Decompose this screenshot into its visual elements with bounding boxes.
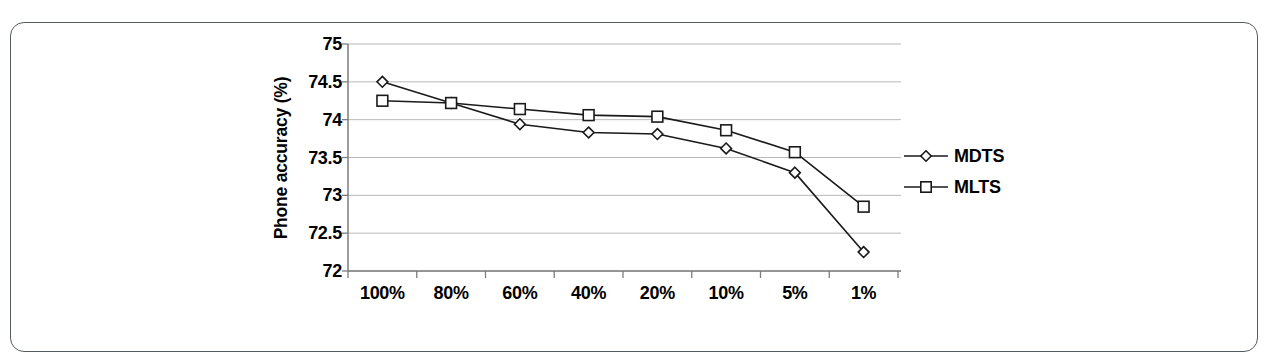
data-point-marker [789,147,800,158]
y-axis-tick-label: 72.5 [288,224,342,242]
y-axis-tick-label: 72 [288,262,342,280]
data-series-group [377,76,869,257]
x-axis-tick-label: 80% [417,283,485,303]
legend-item-label: MLTS [949,178,1001,196]
data-point-marker [514,104,525,115]
legend-item-mdts[interactable]: MDTS [903,140,1053,171]
data-point-marker [721,143,732,154]
data-point-marker [652,129,663,140]
diamond-marker-icon [903,148,949,164]
grid-lines-group [348,44,901,271]
data-point-marker [583,110,594,121]
y-axis-tick-label: 74.5 [288,73,342,91]
data-point-marker [721,125,732,136]
x-axis-tick-label: 100% [348,283,416,303]
data-point-marker [858,201,869,212]
x-axis-ticks-group [348,271,898,278]
x-axis-tick-label: 40% [555,283,623,303]
data-point-marker [446,98,457,109]
chart-legend: MDTSMLTS [903,140,1053,202]
data-point-marker [652,111,663,122]
data-point-marker [377,76,388,87]
x-axis-tick-labels: 100%80%60%40%20%10%5%1% [348,283,898,307]
x-axis-tick-label: 10% [692,283,760,303]
data-point-marker [514,119,525,130]
square-marker-icon [903,179,949,195]
legend-item-label: MDTS [949,147,1004,165]
y-axis-tick-label: 73.5 [288,149,342,167]
data-point-marker [583,127,594,138]
series-mlts [377,95,869,212]
x-axis-tick-label: 5% [761,283,829,303]
y-axis-tick-label: 75 [288,35,342,53]
y-axis-tick-labels: 7574.57473.57372.572 [286,0,342,326]
x-axis-tick-label: 20% [623,283,691,303]
data-point-marker [377,95,388,106]
y-axis-tick-label: 73 [288,186,342,204]
x-axis-tick-label: 1% [830,283,898,303]
y-axis-tick-label: 74 [288,111,342,129]
legend-item-mlts[interactable]: MLTS [903,171,1053,202]
x-axis-tick-label: 60% [486,283,554,303]
y-axis-ticks-group [342,44,348,271]
